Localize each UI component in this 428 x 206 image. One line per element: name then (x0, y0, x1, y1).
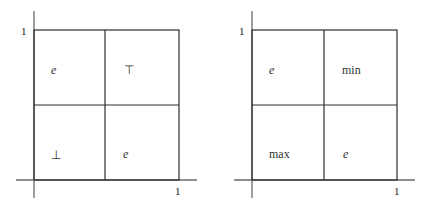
left-diagram: 1 1 e ⊤ ⊥ e (16, 11, 197, 198)
left-cell-top-right: ⊤ (124, 63, 134, 77)
right-x-tick-label: 1 (394, 185, 400, 197)
right-diagram: 1 1 e min max e (234, 11, 415, 198)
left-y-tick-label: 1 (21, 25, 27, 37)
right-cell-top-left: e (269, 63, 275, 77)
right-y-tick-label: 1 (239, 25, 245, 37)
right-cell-bottom-left: max (269, 147, 290, 161)
right-cell-top-right: min (342, 63, 361, 77)
left-cell-top-left: e (51, 63, 57, 77)
left-x-tick-label: 1 (175, 185, 181, 197)
diagram-canvas: 1 1 e ⊤ ⊥ e 1 1 e min max e (0, 0, 428, 206)
right-cell-bottom-right: e (343, 147, 349, 161)
left-cell-bottom-left: ⊥ (51, 148, 61, 162)
left-cell-bottom-right: e (123, 147, 129, 161)
